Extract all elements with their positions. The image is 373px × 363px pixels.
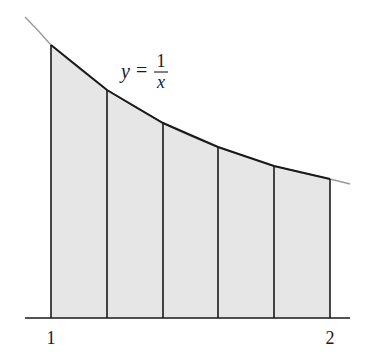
tick-label-2: 2 xyxy=(326,328,335,348)
shaded-region xyxy=(51,45,330,318)
curve-label-y: y xyxy=(119,60,130,83)
tick-label-1: 1 xyxy=(47,328,56,348)
curve-label-denominator: x xyxy=(156,72,165,92)
curve-label-equals: = xyxy=(136,59,147,81)
curve-label: y = 1 x xyxy=(119,51,168,92)
trapezoid-rule-diagram: 1 2 y = 1 x xyxy=(0,0,373,363)
curve-label-numerator: 1 xyxy=(157,51,166,71)
